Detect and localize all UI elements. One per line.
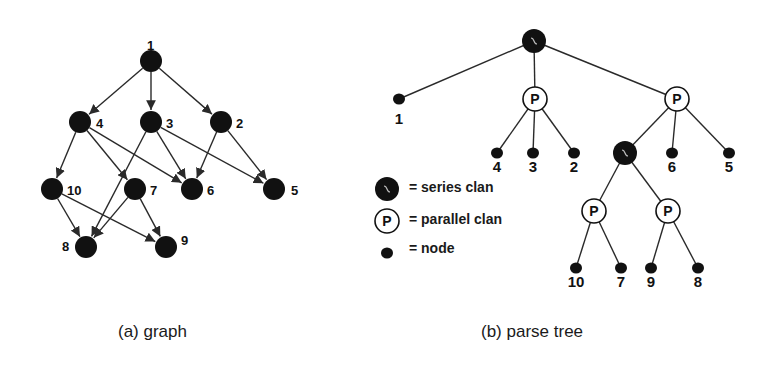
graph-edge-1-2	[159, 68, 212, 114]
graph-edge-10-8	[58, 198, 80, 236]
tree-leaf-5	[723, 148, 735, 159]
graph-edge-7-9	[140, 199, 160, 237]
tree-parallel-clan-P1: P	[523, 87, 547, 111]
tree-leaf-4	[491, 148, 503, 159]
graph-node-4	[69, 111, 91, 133]
graph-node-label-5: 5	[291, 183, 298, 198]
legend-parallel-icon: P	[375, 209, 399, 233]
tree-leaf-label-8: 8	[694, 273, 702, 290]
graph-edge-2-6	[197, 132, 217, 178]
tree-parallel-clan-P4: P	[656, 199, 680, 223]
legend-node-icon	[381, 248, 393, 259]
graph-node-3	[140, 111, 162, 133]
tree-parallel-clan-P3: P	[582, 199, 606, 223]
graph-edge-4-6	[89, 128, 181, 183]
legend: P	[375, 177, 399, 259]
tree-edge-S1-1	[399, 41, 534, 99]
graph-node-label-2: 2	[236, 116, 243, 131]
tree-leaf-label-3: 3	[529, 158, 537, 175]
tree-series-clan-S1	[522, 29, 546, 53]
graph-node-label-6: 6	[207, 183, 214, 198]
svg-text:P: P	[663, 203, 672, 219]
parse-tree-caption: (b) parse tree	[481, 322, 583, 342]
tree-leaf-label-2: 2	[570, 158, 578, 175]
tree-edge-S1-P2	[534, 41, 677, 99]
tree-leaf-8	[692, 263, 704, 274]
graph-node-6	[181, 178, 203, 200]
graph-node-label-4: 4	[96, 116, 104, 131]
graph-node-label-10: 10	[67, 183, 81, 198]
tree-leaf-2	[568, 148, 580, 159]
tree-parallel-clan-P2: P	[665, 87, 689, 111]
graph-node-10	[41, 178, 63, 200]
tree-leaf-label-9: 9	[647, 273, 655, 290]
svg-text:P: P	[672, 91, 681, 107]
graph-node-label-1: 1	[147, 38, 154, 53]
tree-leaf-label-10: 10	[568, 273, 585, 290]
tree-leaf-7	[615, 263, 627, 274]
legend-node-label: = node	[409, 240, 455, 256]
tree-leaf-9	[645, 263, 657, 274]
tree-leaf-label-6: 6	[668, 158, 676, 175]
graph-edge-7-8	[94, 197, 128, 237]
tree-leaf-label-5: 5	[725, 158, 733, 175]
graph-edge-1-4	[89, 68, 143, 114]
graph-node-8	[75, 236, 97, 258]
legend-series-label: = series clan	[409, 179, 493, 195]
tree-leaf-label-1: 1	[395, 110, 403, 127]
svg-text:P: P	[382, 213, 391, 229]
tree-leaf-label-4: 4	[493, 158, 502, 175]
graph-node-label-8: 8	[62, 239, 69, 254]
tree-series-clan-S2	[613, 141, 637, 165]
graph-node-1	[140, 50, 162, 72]
svg-text:P: P	[589, 203, 598, 219]
legend-parallel-label: = parallel clan	[409, 211, 502, 227]
graph-node-5	[263, 178, 285, 200]
legend-series-icon	[375, 177, 399, 201]
dag-graph: 14321076589	[41, 38, 298, 258]
figure-canvas: 14321076589 1PP43265PP10798 P	[0, 0, 774, 370]
tree-leaf-1	[393, 94, 405, 105]
graph-caption: (a) graph	[118, 322, 187, 342]
tree-leaf-10	[570, 263, 582, 274]
graph-node-7	[124, 178, 146, 200]
graph-edge-4-10	[57, 132, 76, 178]
tree-leaf-6	[666, 148, 678, 159]
graph-node-9	[155, 236, 177, 258]
graph-edge-2-5	[228, 131, 267, 180]
graph-node-label-7: 7	[150, 183, 157, 198]
graph-node-2	[210, 111, 232, 133]
graph-node-label-9: 9	[181, 233, 188, 248]
tree-leaf-label-7: 7	[617, 273, 625, 290]
graph-node-label-3: 3	[166, 116, 173, 131]
tree-leaf-3	[527, 148, 539, 159]
svg-text:P: P	[530, 91, 539, 107]
